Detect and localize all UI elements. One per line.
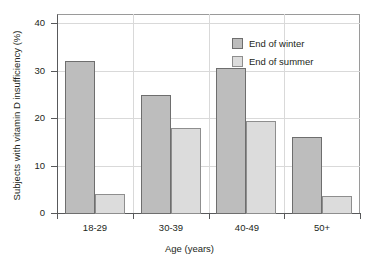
bar-50plus-summer [322, 196, 352, 214]
y-tick-mark-20 [51, 118, 57, 119]
category-separator-1 [133, 14, 134, 213]
x-tick-mark-0 [57, 213, 58, 219]
bar-18-29-winter [65, 61, 95, 214]
bar-40-49-winter [216, 68, 246, 214]
y-tick-text: 10 [22, 161, 45, 171]
legend-item-winter: End of winter [232, 36, 313, 51]
x-tick-mark-4 [360, 213, 361, 219]
category-separator-2 [209, 14, 210, 213]
legend-item-summer: End of summer [232, 54, 313, 69]
bar-40-49-summer [246, 121, 276, 214]
legend-swatch-winter-icon [232, 38, 243, 49]
y-tick-label-20: 20 [22, 113, 45, 123]
y-tick-text: 20 [22, 113, 45, 123]
bar-50plus-winter [292, 137, 322, 214]
x-tick-mark-1 [133, 213, 134, 219]
legend-swatch-summer-icon [232, 56, 243, 67]
bar-30-39-winter [141, 95, 171, 214]
x-tick-label-30-39: 30-39 [133, 223, 209, 233]
bar-18-29-summer [95, 194, 125, 214]
x-tick-label-40-49: 40-49 [209, 223, 285, 233]
x-tick-mark-2 [209, 213, 210, 219]
legend-label-summer: End of summer [249, 57, 313, 67]
y-tick-label-30: 30 [22, 66, 45, 76]
y-tick-label-40: 40 [22, 18, 45, 28]
page-edge-strip [0, 0, 379, 7]
x-tick-mark-3 [284, 213, 285, 219]
y-tick-label-0: 0 [22, 208, 45, 218]
chart-figure: 010203040 Subjects with vitamin D insuff… [0, 0, 379, 268]
y-tick-mark-30 [51, 71, 57, 72]
y-tick-text: 30 [22, 66, 45, 76]
legend-label-winter: End of winter [249, 39, 304, 49]
y-tick-text: 0 [22, 208, 45, 218]
y-tick-label-10: 10 [22, 161, 45, 171]
legend: End of winter End of summer [232, 36, 313, 72]
x-tick-label-50plus: 50+ [284, 223, 360, 233]
y-tick-mark-40 [51, 23, 57, 24]
x-tick-label-18-29: 18-29 [57, 223, 133, 233]
y-tick-text: 40 [22, 18, 45, 28]
bar-30-39-summer [171, 128, 201, 214]
y-axis-title: Subjects with vitamin D insufficiency (%… [11, 11, 22, 221]
x-axis-title: Age (years) [0, 243, 379, 254]
y-tick-mark-10 [51, 166, 57, 167]
